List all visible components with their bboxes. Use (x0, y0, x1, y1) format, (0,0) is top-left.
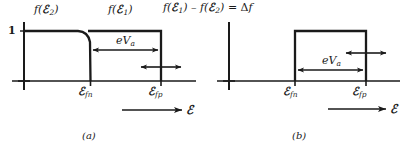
panel-a-plot (12, 22, 196, 110)
panel-b-caption: (b) (292, 131, 306, 141)
panel-a-curve-f-e2 (24, 31, 91, 81)
panel-a-bias-label-eva: eVa (116, 35, 135, 48)
figure-root: f(ℰ2) f(ℰ1) f(ℰ1) – f(ℰ2) = Δf 1 eVa eVa… (0, 0, 408, 149)
panel-a-y-tick-label-one: 1 (8, 25, 16, 36)
panel-b-x-tick-label-efn: ℰfn (283, 86, 298, 99)
curve-label-f-e1: f(ℰ1) (108, 4, 132, 17)
panel-b-plot (217, 22, 400, 109)
panel-a-axis-label-energy: ℰ (186, 104, 193, 116)
panel-b-bias-label-eva: eVa (322, 55, 341, 68)
figure-canvas (0, 0, 408, 149)
top-equation-delta-f: f(ℰ1) – f(ℰ2) = Δf (163, 2, 253, 15)
panel-a-x-tick-label-efp: ℰfp (148, 86, 163, 99)
curve-label-f-e2: f(ℰ2) (34, 4, 58, 17)
panel-b-axis-label-energy: ℰ (390, 103, 397, 115)
panel-a-x-tick-label-efn: ℰfn (78, 86, 93, 99)
panel-a-caption: (a) (82, 131, 96, 141)
panel-b-x-tick-label-efp: ℰfp (352, 86, 367, 99)
